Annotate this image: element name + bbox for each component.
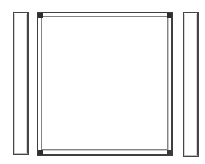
line-drawing-svg (0, 0, 205, 164)
corner-mark-top-left (38, 13, 43, 18)
right-vertical-bar-outline (184, 13, 199, 157)
corner-mark-bottom-left (38, 150, 43, 156)
center-square-inner-outline (41, 16, 168, 150)
right-vertical-bar (184, 13, 199, 157)
drawing-canvas: Left narrow vertical rectangle Center la… (0, 0, 205, 164)
corner-mark-bottom-right (167, 150, 173, 156)
corner-mark-top-right (167, 13, 173, 19)
left-vertical-bar (14, 13, 29, 155)
left-vertical-bar-outline (14, 13, 29, 155)
center-square-inner (41, 16, 168, 151)
